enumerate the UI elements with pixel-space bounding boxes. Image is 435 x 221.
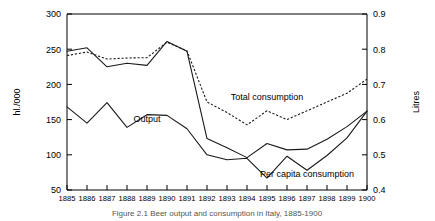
right-axis-ticks xyxy=(362,14,367,190)
x-tick-label: 1900 xyxy=(359,194,376,203)
x-tick-label: 1899 xyxy=(339,194,356,203)
y2-tick-label: 0.9 xyxy=(373,9,386,19)
x-tick-label: 1886 xyxy=(79,194,96,203)
plot-frame xyxy=(67,14,367,190)
annotation-per-capita-consumption: Per capita consumption xyxy=(260,169,354,179)
y2-tick-label: 0.6 xyxy=(373,115,386,125)
x-tick-label: 1892 xyxy=(199,194,216,203)
x-tick-label: 1894 xyxy=(239,194,256,203)
left-axis-ticks xyxy=(67,14,72,190)
series-line-output xyxy=(67,103,367,178)
x-tick-label: 1896 xyxy=(279,194,296,203)
series-line-per-capita-consumption xyxy=(67,42,367,125)
y2-axis-title: Litres xyxy=(411,91,421,114)
y2-tick-label: 0.8 xyxy=(373,45,386,55)
x-tick-label: 1895 xyxy=(259,194,276,203)
annotation-total-consumption: Total consumption xyxy=(231,92,304,102)
y-tick-label: 100 xyxy=(46,150,61,160)
y-tick-label: 150 xyxy=(46,115,61,125)
x-tick-label: 1893 xyxy=(219,194,236,203)
data-series-group xyxy=(67,41,367,178)
right-axis-tick-labels: 0.90.80.70.60.50.4 xyxy=(373,9,386,195)
y-tick-label: 300 xyxy=(46,9,61,19)
x-tick-label: 1887 xyxy=(99,194,116,203)
x-tick-label: 1890 xyxy=(159,194,176,203)
y-tick-label: 200 xyxy=(46,80,61,90)
y2-tick-label: 0.7 xyxy=(373,80,386,90)
x-tick-label: 1889 xyxy=(139,194,156,203)
figure-caption: Figure 2.1 Beer output and consumption i… xyxy=(112,209,323,218)
left-axis-tick-labels: 30025020015010050 xyxy=(46,9,61,195)
x-tick-label: 1898 xyxy=(319,194,336,203)
figure-container: 30025020015010050 0.90.80.70.60.50.4 188… xyxy=(0,0,435,221)
chart-canvas: 30025020015010050 0.90.80.70.60.50.4 188… xyxy=(0,0,435,221)
x-axis-ticks xyxy=(67,185,367,190)
x-tick-label: 1885 xyxy=(59,194,76,203)
annotation-output: Output xyxy=(133,114,161,124)
x-tick-label: 1888 xyxy=(119,194,136,203)
x-tick-label: 1897 xyxy=(299,194,316,203)
series-line-total-consumption xyxy=(67,41,367,157)
y-tick-label: 250 xyxy=(46,45,61,55)
y2-tick-label: 0.5 xyxy=(373,150,386,160)
x-tick-label: 1891 xyxy=(179,194,196,203)
x-axis-tick-labels: 1885188618871888188918901891189218931894… xyxy=(59,194,376,203)
y-axis-title: hl./000 xyxy=(12,88,22,115)
